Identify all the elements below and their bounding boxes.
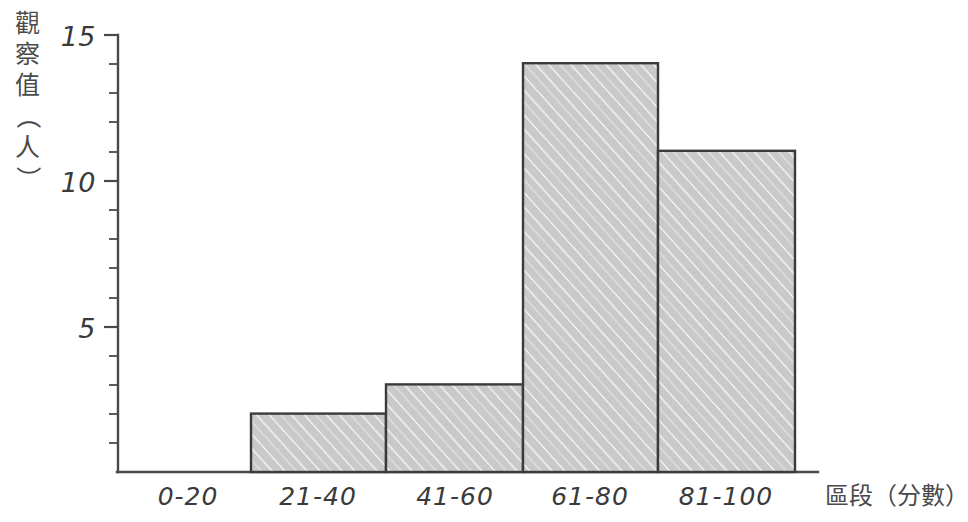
- bar-61-80[interactable]: [523, 63, 658, 472]
- x-tick-label-2: 41-60: [416, 482, 494, 511]
- x-tick-label-4: 81-100: [679, 482, 774, 511]
- bar-41-60[interactable]: [386, 384, 523, 472]
- x-tick-label-0: 0-20: [158, 482, 219, 511]
- x-axis-title: 區段（分數）: [825, 482, 968, 510]
- chart-canvas: 15 10 5 0-20 21-40 41-60 61-80 81-100 區段…: [0, 0, 968, 522]
- bar-81-100[interactable]: [658, 151, 795, 472]
- bars-group: [251, 63, 795, 472]
- y-tick-label-10: 10: [61, 167, 96, 198]
- y-tick-label-5: 5: [78, 313, 96, 344]
- y-axis-minor-ticks: [109, 64, 118, 443]
- histogram-chart: 觀 察 值 （ 人 ）: [0, 0, 968, 522]
- y-axis-major-ticks: [104, 35, 118, 327]
- bar-21-40[interactable]: [251, 414, 386, 472]
- x-tick-label-3: 61-80: [551, 482, 629, 511]
- y-tick-label-15: 15: [61, 21, 96, 52]
- x-tick-label-1: 21-40: [279, 482, 357, 511]
